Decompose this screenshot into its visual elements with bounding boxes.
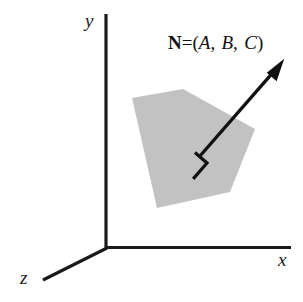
shaded-plane-polygon <box>132 89 255 208</box>
component-c: C <box>244 32 257 53</box>
component-b: B <box>221 32 233 53</box>
comma-2: , <box>233 32 238 53</box>
axis-label-z: z <box>20 268 27 287</box>
axis-label-y: y <box>85 11 93 30</box>
component-a: A <box>199 32 211 53</box>
normal-vector-label: N=(A, B, C) <box>168 33 263 52</box>
comma-1: , <box>210 32 215 53</box>
axis-label-x: x <box>278 250 286 269</box>
equals-sign: = <box>182 32 193 53</box>
figure-canvas: y x z N=(A, B, C) <box>0 0 303 302</box>
close-paren: ) <box>257 32 263 53</box>
z-axis-line <box>43 248 107 280</box>
normal-vector-name: N <box>168 32 182 53</box>
